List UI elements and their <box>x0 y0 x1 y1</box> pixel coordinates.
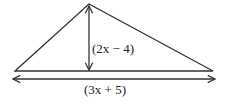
base-label: (3x + 5) <box>84 82 126 97</box>
height-label: (2x − 4) <box>92 41 134 56</box>
triangle-diagram: (2x − 4) (3x + 5) <box>0 0 228 105</box>
triangle <box>15 4 213 71</box>
